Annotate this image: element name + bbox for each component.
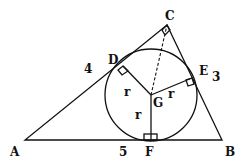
label-c: C (165, 9, 175, 23)
label-a: A (9, 145, 20, 159)
label-e: E (199, 64, 208, 78)
label-r-gd: r (124, 85, 131, 99)
right-angle-marker-e (186, 78, 194, 86)
label-r-ge: r (168, 87, 175, 101)
triangle-abc (25, 25, 222, 140)
label-f: F (145, 145, 154, 159)
label-side-ac: 4 (84, 62, 92, 76)
label-r-gf: r (135, 108, 142, 122)
label-side-bc: 3 (212, 70, 220, 84)
label-b: B (225, 145, 235, 159)
label-d: D (108, 53, 118, 67)
incircle-diagram: C D E 3 4 r G r r A 5 F B (0, 0, 246, 163)
label-side-ab: 5 (119, 145, 127, 159)
label-g: G (153, 96, 163, 110)
